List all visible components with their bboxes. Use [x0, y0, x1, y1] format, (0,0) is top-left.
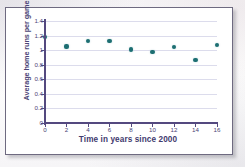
y-axis-tick-mark — [41, 79, 45, 80]
x-axis-tick-mark — [217, 123, 218, 127]
gridline — [45, 21, 217, 22]
data-point — [107, 39, 111, 43]
x-axis-tick-label: 0 — [38, 126, 52, 133]
gridline — [45, 65, 217, 66]
y-axis-tick-mark — [41, 50, 45, 51]
x-axis-tick-label: 14 — [189, 126, 203, 133]
x-axis-tick-mark — [131, 123, 132, 127]
y-axis-tick-mark — [41, 108, 45, 109]
x-axis-tick-mark — [88, 123, 89, 127]
y-axis-tick-mark — [41, 21, 45, 22]
data-point — [172, 45, 176, 49]
gridline — [45, 94, 217, 95]
y-axis-tick-mark — [41, 65, 45, 66]
x-axis-tick-labels: 0246810121416 — [6, 126, 234, 136]
plot-area — [45, 21, 217, 123]
x-axis-tick-label: 12 — [167, 126, 181, 133]
gridline — [45, 79, 217, 80]
x-axis-tick-mark — [152, 123, 153, 127]
gridline — [45, 108, 217, 109]
data-point — [129, 47, 133, 51]
x-axis-tick-label: 16 — [210, 126, 224, 133]
data-point — [215, 43, 219, 47]
data-point — [193, 58, 197, 62]
gridline — [45, 36, 217, 37]
x-axis-tick-label: 6 — [103, 126, 117, 133]
x-axis-tick-label: 10 — [146, 126, 160, 133]
data-point — [150, 50, 154, 54]
x-axis-tick-mark — [45, 123, 46, 127]
x-axis-tick-mark — [66, 123, 67, 127]
x-axis-tick-label: 2 — [60, 126, 74, 133]
chart-screenshot: Average home runs per game Time in years… — [0, 0, 245, 167]
data-point — [64, 44, 68, 48]
y-axis-tick-mark — [41, 94, 45, 95]
x-axis-tick-label: 4 — [81, 126, 95, 133]
x-axis-tick-mark — [174, 123, 175, 127]
data-point — [86, 39, 90, 43]
x-axis-tick-mark — [109, 123, 110, 127]
scatter-plot: Average home runs per game Time in years… — [6, 8, 234, 156]
chart-frame: Average home runs per game Time in years… — [5, 7, 233, 155]
y-axis-tick-mark — [41, 36, 45, 37]
x-axis-tick-mark — [195, 123, 196, 127]
x-axis-tick-label: 8 — [124, 126, 138, 133]
x-axis-title: Time in years since 2000 — [28, 135, 228, 144]
